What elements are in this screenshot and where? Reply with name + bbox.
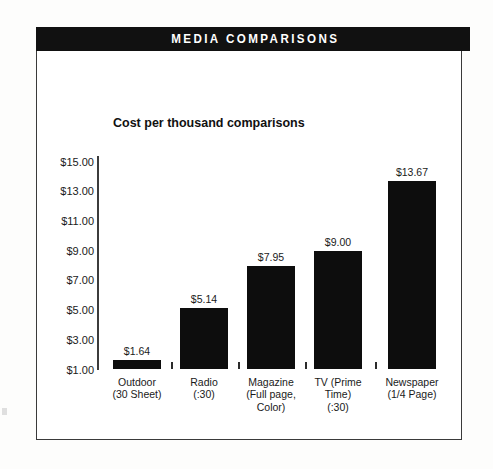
y-axis-tick-label: $1.00 <box>66 364 94 376</box>
y-axis-tick-label: $11.00 <box>61 215 94 227</box>
page-title: MEDIA COMPARISONS <box>166 32 340 46</box>
scan-artifact <box>2 408 7 415</box>
bar <box>180 308 228 370</box>
y-axis-tick-label: $3.00 <box>66 334 94 346</box>
y-axis-tick-label: $13.00 <box>60 185 94 197</box>
bar <box>388 181 436 369</box>
bar-value-label: $13.67 <box>396 166 428 178</box>
y-axis-tick-label: $7.00 <box>66 274 94 286</box>
bar <box>113 360 161 370</box>
bar-value-label: $9.00 <box>325 236 351 248</box>
y-axis-tick-label: $5.00 <box>66 304 94 316</box>
y-axis-tick-label: $9.00 <box>66 245 94 257</box>
y-axis-line <box>97 156 99 370</box>
bar-value-label: $5.14 <box>191 293 217 305</box>
bar-value-label: $7.95 <box>258 251 284 263</box>
bar-value-label: $1.64 <box>124 345 150 357</box>
bar <box>314 251 362 370</box>
category-label: Newspaper (1/4 Page) <box>364 376 460 401</box>
y-axis-tick-label: $15.00 <box>60 156 94 168</box>
bar <box>247 266 295 369</box>
x-axis-tick <box>171 362 173 369</box>
x-axis-tick <box>305 362 307 369</box>
chart-title-bar: MEDIA COMPARISONS <box>36 27 470 51</box>
chart-subtitle: Cost per thousand comparisons <box>113 116 313 131</box>
x-axis-tick <box>375 362 377 369</box>
x-axis-tick <box>238 362 240 369</box>
